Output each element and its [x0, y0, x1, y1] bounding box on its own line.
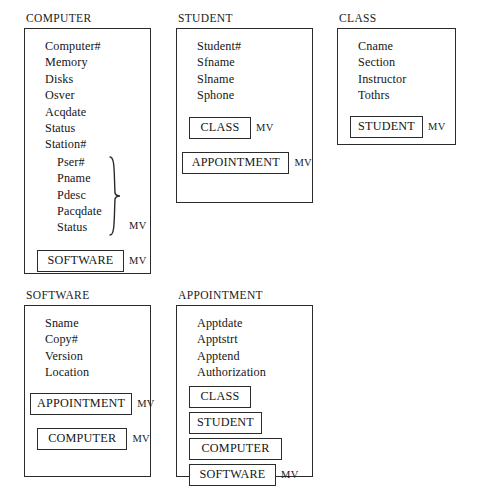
attribute: Slname [177, 71, 312, 87]
mv-label: MV [129, 255, 147, 266]
reference-row: CLASS [177, 386, 312, 408]
attribute: Copy# [25, 331, 150, 347]
reference-row: COMPUTER MV [25, 428, 150, 450]
attribute: Disks [25, 71, 150, 87]
entity-title-software: SOFTWARE [24, 289, 151, 302]
reference-box-software[interactable]: SOFTWARE [189, 464, 276, 486]
attribute: Section [338, 54, 455, 70]
entity-title-class: CLASS [337, 12, 456, 25]
repeating-group-computer: Pser# Pname Pdesc Pacqdate Status MV [25, 154, 150, 236]
attribute: Tothrs [338, 87, 455, 103]
attribute: Cname [338, 38, 455, 54]
entity-class: CLASS Cname Section Instructor Tothrs ST… [337, 12, 456, 145]
reference-box-appointment[interactable]: APPOINTMENT [30, 393, 132, 415]
attribute: Acqdate [25, 104, 150, 120]
entity-title-appointment: APPOINTMENT [176, 289, 313, 302]
attribute: Station# [25, 136, 150, 152]
reference-row: APPOINTMENT MV [177, 152, 312, 174]
reference-box-student[interactable]: STUDENT [189, 412, 262, 434]
attribute: Pdesc [25, 187, 150, 203]
attribute: Pser# [25, 154, 150, 170]
attribute: Authorization [177, 364, 312, 380]
reference-box-software[interactable]: SOFTWARE [37, 250, 124, 272]
mv-label: MV [281, 469, 299, 480]
mv-label: MV [428, 121, 446, 132]
reference-row: STUDENT [177, 412, 312, 434]
attribute: Apptdate [177, 315, 312, 331]
entity-box-appointment: Apptdate Apptstrt Apptend Authorization … [176, 305, 313, 477]
entity-student: STUDENT Student# Sfname Slname Sphone CL… [176, 12, 313, 203]
reference-box-class[interactable]: CLASS [189, 117, 251, 139]
reference-row: SOFTWARE MV [177, 464, 312, 486]
reference-row: SOFTWARE MV [25, 250, 150, 272]
attribute: Computer# [25, 38, 150, 54]
entity-box-computer: Computer# Memory Disks Osver Acqdate Sta… [24, 28, 151, 274]
entity-title-student: STUDENT [176, 12, 313, 25]
attribute: Apptend [177, 348, 312, 364]
attribute: Pname [25, 170, 150, 186]
attribute: Location [25, 364, 150, 380]
reference-box-appointment[interactable]: APPOINTMENT [182, 152, 289, 174]
reference-box-student[interactable]: STUDENT [350, 116, 423, 138]
entity-software: SOFTWARE Sname Copy# Version Location AP… [24, 289, 151, 477]
reference-box-class[interactable]: CLASS [189, 386, 251, 408]
attribute: Status [25, 120, 150, 136]
attribute: Student# [177, 38, 312, 54]
attribute: Version [25, 348, 150, 364]
reference-box-computer[interactable]: COMPUTER [189, 438, 282, 460]
attribute: Sphone [177, 87, 312, 103]
repeating-group-mv-label: MV [129, 220, 147, 231]
reference-box-computer[interactable]: COMPUTER [37, 428, 127, 450]
entity-appointment: APPOINTMENT Apptdate Apptstrt Apptend Au… [176, 289, 313, 477]
attribute: Sname [25, 315, 150, 331]
reference-row: STUDENT MV [338, 116, 455, 138]
attribute: Apptstrt [177, 331, 312, 347]
attribute: Memory [25, 54, 150, 70]
entity-box-class: Cname Section Instructor Tothrs STUDENT … [337, 28, 456, 145]
reference-row: COMPUTER [177, 438, 312, 460]
entity-title-computer: COMPUTER [24, 12, 151, 25]
attribute: Pacqdate [25, 203, 150, 219]
attribute: Instructor [338, 71, 455, 87]
attribute: Osver [25, 87, 150, 103]
reference-row: APPOINTMENT MV [25, 393, 150, 415]
mv-label: MV [294, 157, 312, 168]
entity-box-student: Student# Sfname Slname Sphone CLASS MV A… [176, 28, 313, 203]
mv-label: MV [132, 433, 150, 444]
mv-label: MV [256, 122, 274, 133]
entity-computer: COMPUTER Computer# Memory Disks Osver Ac… [24, 12, 151, 274]
attribute: Sfname [177, 54, 312, 70]
mv-label: MV [137, 398, 155, 409]
reference-row: CLASS MV [177, 117, 312, 139]
entity-box-software: Sname Copy# Version Location APPOINTMENT… [24, 305, 151, 477]
